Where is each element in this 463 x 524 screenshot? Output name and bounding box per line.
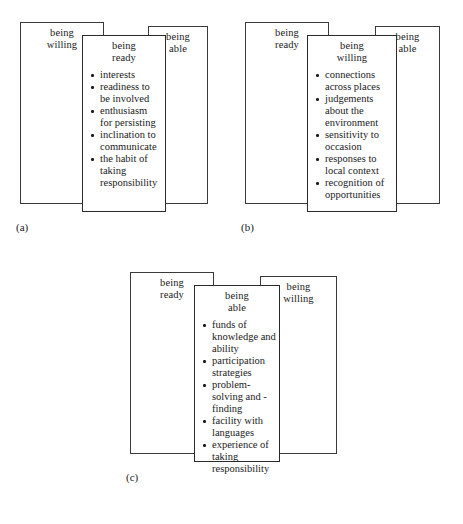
- card-center-a-title: beingready: [83, 36, 165, 64]
- panel-a: beingwilling beingable beingready intere…: [0, 0, 231, 262]
- list-item: problem-solving and - finding: [203, 379, 276, 415]
- list-item: experience of taking responsibility: [203, 439, 276, 475]
- card-center-c: beingable funds of knowledge and ability…: [194, 285, 280, 462]
- list-item: judgements about the environment: [316, 93, 393, 129]
- list-item: connections across places: [316, 69, 393, 93]
- card-center-b: beingwilling connections across placesju…: [307, 35, 397, 212]
- list-item: responses to local context: [316, 153, 393, 177]
- list-item: participation strategies: [203, 355, 276, 379]
- list-item: interests: [91, 69, 162, 81]
- card-center-b-items: connections across placesjudgements abou…: [308, 69, 396, 201]
- list-item: sensitivity to occasion: [316, 129, 393, 153]
- card-center-c-title: beingable: [195, 286, 279, 314]
- panel-c-label: (c): [126, 472, 138, 483]
- list-item: readiness to be involved: [91, 81, 162, 105]
- list-item: funds of knowledge and ability: [203, 319, 276, 355]
- panel-c: beingready beingwilling beingable funds …: [110, 260, 353, 524]
- list-item: recognition of opportunities: [316, 177, 393, 201]
- panel-b: beingready beingable beingwilling connec…: [231, 0, 463, 262]
- panel-b-label: (b): [241, 222, 254, 233]
- list-item: the habit of taking responsibility: [91, 153, 162, 189]
- list-item: facility with languages: [203, 415, 276, 439]
- card-center-c-items: funds of knowledge and abilityparticipat…: [195, 319, 279, 475]
- card-center-a: beingready interestsreadiness to be invo…: [82, 35, 166, 212]
- list-item: enthusiasm for persisting: [91, 105, 162, 129]
- card-center-b-title: beingwilling: [308, 36, 396, 64]
- card-center-a-items: interestsreadiness to be involvedenthusi…: [83, 69, 165, 189]
- list-item: inclination to communicate: [91, 129, 162, 153]
- panel-a-label: (a): [16, 222, 28, 233]
